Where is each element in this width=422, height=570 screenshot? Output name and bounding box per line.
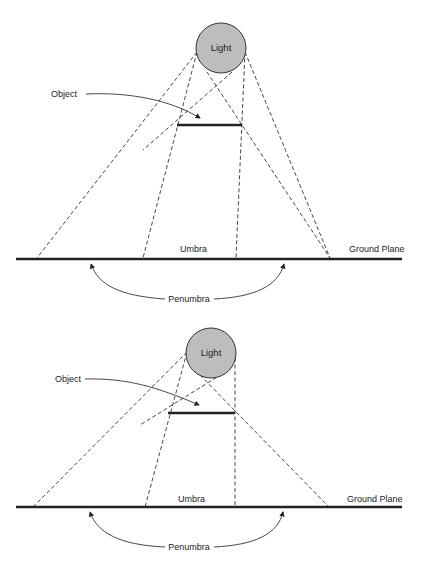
ground-plane-label: Ground Plane	[349, 244, 405, 254]
object-pointer-arrow	[85, 379, 199, 405]
diagram-top: Light Object Umbra Ground Plane Penumbra	[16, 23, 405, 304]
penumbra-label: Penumbra	[168, 542, 210, 552]
penumbra-arrow-right	[214, 264, 284, 299]
ray-inner-left	[145, 352, 187, 507]
penumbra-label: Penumbra	[168, 294, 210, 304]
ground-plane-label: Ground Plane	[347, 494, 403, 504]
penumbra-arrow-left	[90, 512, 165, 547]
umbra-label: Umbra	[180, 244, 207, 254]
object-label: Object	[55, 374, 82, 384]
ray-outer-left	[37, 52, 197, 258]
ray-inner-right	[236, 52, 245, 258]
ray-outer-right	[200, 375, 329, 507]
ray-outer-right	[245, 52, 330, 258]
object-label: Object	[51, 89, 78, 99]
light-label: Light	[211, 42, 232, 53]
shadow-diagrams: Light Object Umbra Ground Plane Penumbra…	[0, 0, 422, 570]
diagram-bottom: Light Object Umbra Ground Plane Penumbra	[16, 328, 403, 552]
ray-cross-right	[207, 72, 330, 258]
penumbra-arrow-left	[91, 264, 165, 299]
penumbra-arrow-right	[214, 512, 283, 547]
ray-cross-left	[140, 374, 222, 425]
umbra-label: Umbra	[178, 494, 205, 504]
ray-inner-left	[143, 52, 197, 258]
light-label: Light	[201, 347, 222, 358]
